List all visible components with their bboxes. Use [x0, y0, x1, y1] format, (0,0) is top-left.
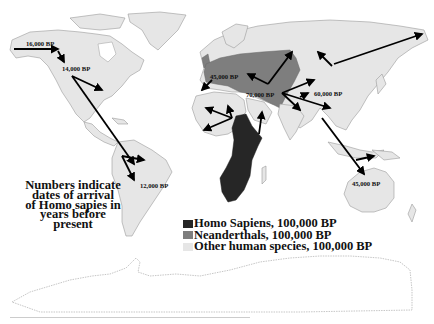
map-legend: Homo Sapiens, 100,000 BP Neanderthals, 1… — [183, 218, 372, 253]
legend-label: Other human species, 100,000 BP — [194, 241, 372, 253]
indonesia — [328, 142, 384, 158]
new-zealand — [408, 204, 416, 222]
label-australia: 45,000 BP — [352, 180, 380, 187]
note-line: present — [14, 220, 132, 230]
legend-item-other-species: Other human species, 100,000 BP — [183, 241, 372, 253]
label-east-asia: 60,000 BP — [314, 90, 342, 97]
label-europe: 45,000 BP — [210, 73, 238, 80]
australia — [344, 168, 394, 212]
legend-swatch-homo-sapiens — [183, 220, 193, 228]
map-note: Numbers indicate dates of arrival of Hom… — [14, 181, 132, 230]
arctic-islands — [70, 14, 125, 30]
greenland — [128, 12, 186, 50]
label-north-america: 14,000 BP — [62, 65, 90, 72]
label-south-america: 12,000 BP — [140, 182, 168, 189]
world-map: 16,000 BP 14,000 BP 12,000 BP 45,000 BP … — [0, 0, 434, 324]
legend-swatch-neanderthals — [183, 231, 193, 239]
antarctica — [12, 256, 412, 312]
caribbean — [112, 118, 128, 124]
label-middle-east: 70,000 BP — [246, 91, 274, 98]
label-alaska: 16,000 BP — [26, 40, 54, 47]
madagascar — [262, 166, 266, 184]
map-border — [10, 317, 250, 318]
legend-swatch-other-species — [183, 243, 193, 251]
